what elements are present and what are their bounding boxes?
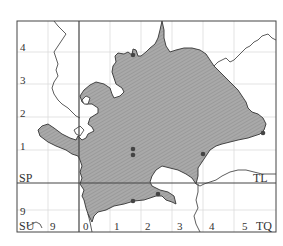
y-label-9: 9 xyxy=(20,206,26,217)
grid-square-tq: TQ xyxy=(256,220,272,232)
grid-square-sp: SP xyxy=(19,172,32,184)
record-dot xyxy=(131,153,136,158)
record-dot xyxy=(201,152,206,157)
y-label-2: 2 xyxy=(20,108,26,119)
record-dot xyxy=(156,192,161,197)
x-label-2: 2 xyxy=(145,221,151,232)
y-label-4: 4 xyxy=(20,42,26,53)
record-dot xyxy=(261,131,266,136)
x-label-0: 0 xyxy=(83,221,89,232)
grid-square-tl: TL xyxy=(253,172,268,184)
y-label-1: 1 xyxy=(20,141,26,152)
x-label-1: 1 xyxy=(114,221,120,232)
x-label-4: 4 xyxy=(209,221,215,232)
y-label-3: 3 xyxy=(20,75,26,86)
record-dot xyxy=(131,147,136,152)
grid-square-su: SU xyxy=(19,220,34,232)
county-area xyxy=(38,21,266,222)
x-label-5: 5 xyxy=(242,221,248,232)
x-label-3: 3 xyxy=(177,221,183,232)
x-label-9: 9 xyxy=(50,221,56,232)
map-canvas xyxy=(0,0,283,246)
record-dot xyxy=(131,53,136,58)
record-dot xyxy=(131,199,136,204)
